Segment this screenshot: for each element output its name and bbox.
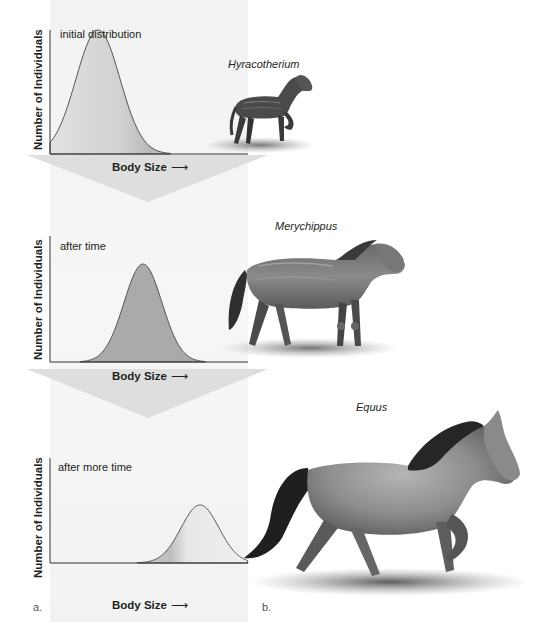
x-axis-label: Body Size⟶ <box>112 598 188 612</box>
distribution-curve-3 <box>137 505 248 563</box>
x-axis-label: Body Size⟶ <box>112 369 188 383</box>
chart-caption: after time <box>60 240 106 252</box>
right-arrow-icon: ⟶ <box>171 370 188 382</box>
chart-caption: after more time <box>58 461 132 473</box>
y-axis-label: Number of Individuals <box>32 239 44 360</box>
x-axis-label-text: Body Size <box>112 370 167 382</box>
distribution-curve-1 <box>50 30 171 154</box>
merychippus-illustration-icon <box>215 230 415 365</box>
x-axis-label-text: Body Size <box>112 161 167 173</box>
y-axis-label: Number of Individuals <box>32 457 44 578</box>
y-axis-label: Number of Individuals <box>32 29 44 150</box>
chart-caption: initial distribution <box>60 28 141 40</box>
distribution-chart-after-time: after time Number of Individuals Body Si… <box>0 214 250 374</box>
hyracotherium-illustration-icon <box>200 65 325 160</box>
distribution-curve-2 <box>80 264 205 362</box>
distribution-chart-after-more-time: after more time Number of Individuals Bo… <box>0 440 250 622</box>
x-axis-label-text: Body Size <box>112 599 167 611</box>
x-axis-label: Body Size⟶ <box>112 160 188 174</box>
equus-illustration-icon <box>240 410 547 610</box>
right-arrow-icon: ⟶ <box>171 599 188 611</box>
right-arrow-icon: ⟶ <box>171 161 188 173</box>
panel-label-a: a. <box>33 601 42 613</box>
